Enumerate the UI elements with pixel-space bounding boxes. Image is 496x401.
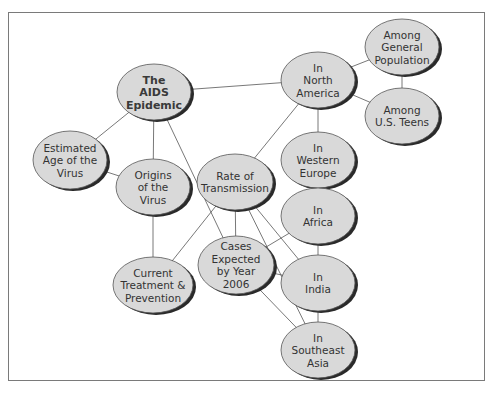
node-label: Asia: [307, 357, 329, 369]
node-label: In: [313, 62, 323, 74]
node-label: Among: [383, 104, 420, 116]
node-label: Current: [133, 267, 172, 279]
node-treatment: CurrentTreatment &Prevention: [113, 257, 196, 315]
node-label: 2006: [223, 278, 250, 290]
node-india: InIndia: [281, 255, 358, 313]
node-label: America: [296, 87, 339, 99]
node-label: Virus: [140, 194, 166, 206]
node-label: AIDS: [139, 86, 169, 99]
node-label: North: [303, 74, 332, 86]
node-label: Age of the: [43, 154, 97, 166]
node-aids: TheAIDSEpidemic: [117, 64, 194, 122]
node-label: Prevention: [125, 292, 181, 304]
node-label: In: [313, 204, 323, 216]
node-label: of the: [138, 181, 169, 193]
node-label: The: [143, 74, 166, 87]
node-label: In: [313, 142, 323, 154]
node-we: InWesternEurope: [281, 132, 358, 190]
node-origins: Originsof theVirus: [116, 159, 193, 217]
node-label: Cases: [220, 240, 251, 252]
node-label: Africa: [303, 216, 333, 228]
concept-map: TheAIDSEpidemicEstimatedAge of theVirusO…: [0, 0, 496, 401]
node-label: India: [305, 283, 331, 295]
node-label: General: [381, 41, 422, 53]
node-label: Among: [383, 29, 420, 41]
node-label: by Year: [217, 265, 256, 277]
concept-nodes: TheAIDSEpidemicEstimatedAge of theVirusO…: [33, 19, 442, 380]
node-label: Virus: [57, 167, 83, 179]
node-label: Estimated: [43, 142, 96, 154]
node-label: Western: [296, 154, 339, 166]
node-label: Treatment &: [120, 279, 186, 291]
node-label: Transmission: [200, 182, 269, 194]
node-label: U.S. Teens: [375, 116, 429, 128]
node-africa: InAfrica: [281, 188, 358, 246]
node-label: Rate of: [216, 170, 254, 182]
node-age: EstimatedAge of theVirus: [33, 131, 110, 191]
node-teens: AmongU.S. Teens: [365, 88, 442, 146]
node-label: Origins: [134, 169, 171, 181]
node-label: Expected: [212, 253, 261, 265]
node-sea: InSoutheastAsia: [281, 322, 358, 380]
node-label: Population: [374, 54, 429, 66]
node-label: Europe: [300, 167, 337, 179]
node-rate: Rate ofTransmission: [197, 154, 276, 212]
node-label: Epidemic: [126, 99, 182, 112]
node-label: In: [313, 271, 323, 283]
node-label: In: [313, 332, 323, 344]
node-gen: AmongGeneralPopulation: [365, 19, 442, 77]
node-label: Southeast: [292, 344, 345, 356]
node-cases: CasesExpectedby Year2006: [198, 236, 277, 296]
node-na: InNorthAmerica: [281, 52, 358, 110]
